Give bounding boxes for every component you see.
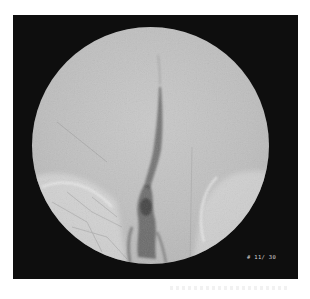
scan-bleed-through xyxy=(170,286,290,290)
angiogram-image xyxy=(32,27,269,264)
fluoroscopy-field-of-view xyxy=(32,27,269,264)
overlay-frame: FRM 1/ 16 xyxy=(234,277,276,279)
dicom-info-overlay: # 11/ 30 FRM 1/ 16 MASK 1 TIME 0.00s xyxy=(234,237,276,279)
overlay-image-number: # 11/ 30 xyxy=(234,253,276,261)
image-frame: # 11/ 30 FRM 1/ 16 MASK 1 TIME 0.00s xyxy=(13,15,298,279)
